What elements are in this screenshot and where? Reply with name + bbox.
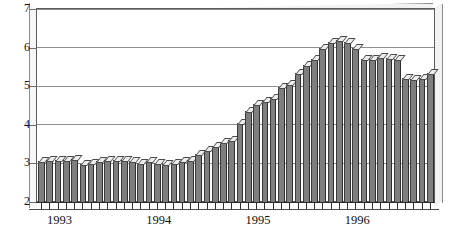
x-tick-mark bbox=[389, 202, 390, 209]
bar bbox=[121, 160, 128, 202]
bar-series bbox=[37, 9, 434, 202]
bar bbox=[361, 59, 368, 202]
y-tick-mark-4 bbox=[29, 125, 37, 126]
x-tick-mark bbox=[207, 202, 208, 209]
bar bbox=[410, 79, 417, 202]
bar-cap bbox=[344, 38, 355, 44]
x-tick-mark bbox=[58, 202, 59, 209]
y-tick-label-3: 3 bbox=[6, 156, 30, 168]
x-tick-mark bbox=[289, 202, 290, 209]
x-tick-mark bbox=[140, 202, 141, 209]
bar bbox=[402, 78, 409, 202]
y-tick-mark-7 bbox=[29, 9, 37, 10]
bar bbox=[311, 59, 318, 202]
bar bbox=[220, 142, 227, 202]
bar bbox=[336, 40, 343, 202]
bar bbox=[195, 154, 202, 202]
x-tick-label-1995: 1995 bbox=[245, 214, 270, 227]
x-tick-mark bbox=[240, 202, 241, 209]
x-tick-mark bbox=[99, 202, 100, 209]
bar bbox=[319, 48, 326, 202]
x-tick-mark bbox=[198, 202, 199, 209]
x-tick-mark bbox=[364, 202, 365, 209]
bar bbox=[328, 42, 335, 202]
bar bbox=[270, 98, 277, 202]
x-tick-mark bbox=[372, 202, 373, 209]
x-tick-mark bbox=[248, 202, 249, 209]
x-tick-mark bbox=[215, 202, 216, 209]
x-tick-mark bbox=[49, 202, 50, 209]
x-tick-mark bbox=[264, 202, 265, 209]
y-tick-label-6: 6 bbox=[6, 41, 30, 53]
bar bbox=[344, 42, 351, 202]
x-tick-mark bbox=[306, 202, 307, 209]
bar bbox=[55, 160, 62, 202]
x-tick-mark bbox=[256, 202, 257, 209]
bar bbox=[179, 161, 186, 202]
bar bbox=[352, 48, 359, 202]
bar bbox=[38, 161, 45, 202]
x-tick-mark bbox=[190, 202, 191, 209]
y-tick-label-7: 7 bbox=[6, 2, 30, 14]
x-tick-mark bbox=[124, 202, 125, 209]
x-tick-mark bbox=[91, 202, 92, 209]
bar bbox=[80, 164, 87, 202]
x-tick-label-1996: 1996 bbox=[345, 214, 370, 227]
bar bbox=[245, 111, 252, 202]
y-tick-mark-6 bbox=[29, 48, 37, 49]
x-tick-mark bbox=[430, 202, 431, 209]
bar-cap bbox=[352, 44, 363, 50]
x-tick-mark bbox=[405, 202, 406, 209]
bar bbox=[187, 160, 194, 202]
bar bbox=[88, 163, 95, 202]
bar bbox=[71, 159, 78, 202]
bar-chart: 234567 1993199419951996 bbox=[0, 0, 458, 237]
chart-frame-right-edge bbox=[442, 4, 443, 203]
x-tick-mark bbox=[298, 202, 299, 209]
x-tick-mark bbox=[422, 202, 423, 209]
bar bbox=[146, 161, 153, 202]
x-tick-mark bbox=[273, 202, 274, 209]
x-tick-mark bbox=[331, 202, 332, 209]
bar bbox=[237, 123, 244, 202]
bar bbox=[137, 163, 144, 202]
x-tick-mark bbox=[66, 202, 67, 209]
x-tick-mark bbox=[355, 202, 356, 209]
x-tick-mark bbox=[82, 202, 83, 209]
x-tick-mark bbox=[397, 202, 398, 209]
bar bbox=[303, 65, 310, 202]
bar bbox=[212, 146, 219, 202]
x-tick-mark bbox=[41, 202, 42, 209]
x-tick-label-1993: 1993 bbox=[47, 214, 72, 227]
x-tick-mark bbox=[149, 202, 150, 209]
x-tick-mark bbox=[413, 202, 414, 209]
bar bbox=[96, 161, 103, 202]
y-tick-mark-5 bbox=[29, 86, 37, 87]
y-tick-mark-3 bbox=[29, 163, 37, 164]
x-tick-mark bbox=[132, 202, 133, 209]
y-tick-label-2: 2 bbox=[6, 195, 30, 207]
bar bbox=[154, 163, 161, 202]
x-tick-mark bbox=[165, 202, 166, 209]
bar bbox=[204, 150, 211, 202]
y-tick-label-5: 5 bbox=[6, 79, 30, 91]
bar bbox=[129, 161, 136, 202]
bar bbox=[394, 59, 401, 202]
bar bbox=[278, 87, 285, 202]
y-tick-label-4: 4 bbox=[6, 118, 30, 130]
x-tick-mark bbox=[281, 202, 282, 209]
bar bbox=[286, 84, 293, 202]
bar bbox=[171, 163, 178, 202]
bar bbox=[104, 160, 111, 202]
bar bbox=[262, 101, 269, 202]
x-tick-mark bbox=[116, 202, 117, 209]
x-tick-mark bbox=[107, 202, 108, 209]
x-tick-mark bbox=[157, 202, 158, 209]
bar bbox=[295, 73, 302, 202]
bar bbox=[63, 160, 70, 202]
chart-frame-left-edge bbox=[29, 3, 30, 208]
bar bbox=[419, 78, 426, 202]
bar bbox=[162, 164, 169, 202]
x-tick-mark bbox=[74, 202, 75, 209]
bar bbox=[386, 58, 393, 202]
